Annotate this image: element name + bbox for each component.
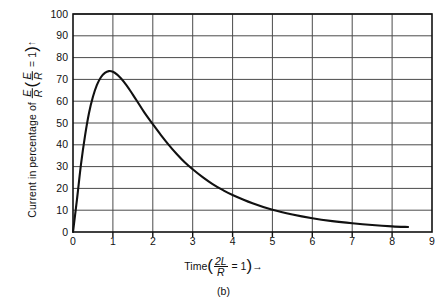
x-tick-label: 8 [382, 236, 402, 247]
x-axis-title-equals: = 1 [229, 260, 247, 272]
x-tick-label: 4 [223, 236, 243, 247]
x-tick-label: 1 [103, 236, 123, 247]
x-axis-title: Time(2LR = 1)→ [0, 256, 447, 278]
x-axis-title-paren-close: ) [246, 256, 252, 276]
x-tick-label: 0 [63, 236, 83, 247]
x-axis-title-fraction: 2LR [214, 256, 228, 278]
x-axis-title-fraction-denominator: R [214, 267, 228, 278]
x-tick-label: 7 [342, 236, 362, 247]
x-axis-title-prefix: Time [184, 260, 207, 272]
x-tick-label: 9 [422, 236, 442, 247]
x-tick-label: 3 [183, 236, 203, 247]
data-curve [73, 71, 408, 232]
x-tick-label: 2 [143, 236, 163, 247]
figure-caption: (b) [0, 285, 447, 297]
right-arrow-icon: → [252, 260, 263, 272]
figure-container: Current in percentage of ER(ER = 1)↑ 100… [0, 0, 447, 308]
x-tick-label-group: 0 1 2 3 4 5 6 7 8 9 [0, 236, 447, 252]
x-axis-title-paren-open: ( [207, 256, 213, 276]
horizontal-gridlines [73, 14, 432, 210]
x-tick-label: 5 [262, 236, 282, 247]
x-tick-label: 6 [302, 236, 322, 247]
